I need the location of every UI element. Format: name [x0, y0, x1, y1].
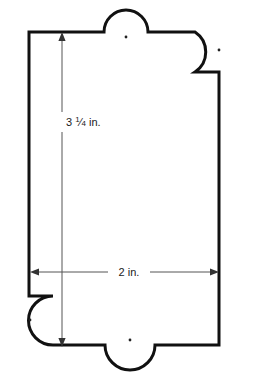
horizontal-dimension-label: 2 in. [119, 266, 140, 278]
shape-diagram: 3 1⁄4 in. 2 in. [0, 0, 254, 380]
horizontal-unit: in. [128, 266, 140, 278]
bottom-tab-hole-icon [129, 339, 132, 342]
plate-outline-path [28, 10, 219, 370]
top-right-lobe-hole-icon [218, 49, 221, 52]
bottom-left-lobe-hole-icon [29, 319, 32, 322]
top-tab-hole-icon [125, 36, 128, 39]
vertical-unit: in. [89, 116, 101, 128]
figure-container: 3 1⁄4 in. 2 in. [0, 0, 254, 380]
